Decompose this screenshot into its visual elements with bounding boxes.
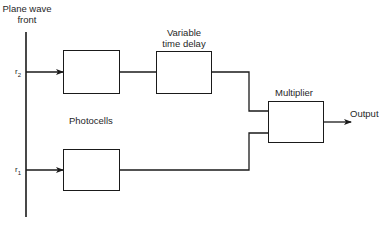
delay-to-multiplier-line <box>212 72 269 111</box>
r2-label-sub: 2 <box>18 72 21 78</box>
cut-off-caption <box>62 224 262 228</box>
multiplier-label: Multiplier <box>275 87 313 98</box>
wavefront-label-line1: Plane wave <box>0 3 54 14</box>
photocell-1-to-multiplier-line <box>120 133 269 170</box>
r2-label: r2 <box>15 66 21 81</box>
delay-label: Variable time delay <box>150 27 218 49</box>
photocells-label: Photocells <box>69 115 113 126</box>
delay-box <box>157 52 212 94</box>
delay-label-line2: time delay <box>150 38 218 49</box>
wavefront-label: Plane wave front <box>0 3 54 25</box>
r1-label-sub: 1 <box>18 170 21 176</box>
output-label: Output <box>350 108 379 119</box>
multiplier-box <box>269 102 324 143</box>
photocell-2-box <box>64 51 120 94</box>
wavefront-label-line2: front <box>0 14 54 25</box>
delay-label-line1: Variable <box>150 27 218 38</box>
photocell-1-box <box>64 150 120 191</box>
r1-label: r1 <box>15 164 21 179</box>
